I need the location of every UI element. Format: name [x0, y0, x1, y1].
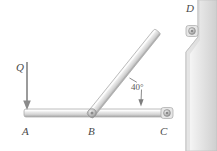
label-load-q: Q: [16, 62, 24, 73]
load-arrow-q-icon: [23, 62, 31, 110]
label-angle-40: 40°: [131, 83, 144, 92]
label-point-a: A: [22, 126, 29, 137]
pin-joint-b-icon: [88, 109, 97, 118]
pin-joint-d-icon: [186, 26, 198, 37]
statics-frame-figure: [0, 0, 217, 151]
diagram-canvas: A B C D Q 40°: [0, 0, 217, 151]
wall-support: [186, 0, 217, 151]
label-point-c: C: [160, 126, 167, 137]
pin-joint-c-icon: [161, 108, 173, 119]
diagonal-strut-bd: [86, 29, 161, 119]
label-point-b: B: [88, 126, 95, 137]
label-point-d: D: [186, 3, 194, 14]
